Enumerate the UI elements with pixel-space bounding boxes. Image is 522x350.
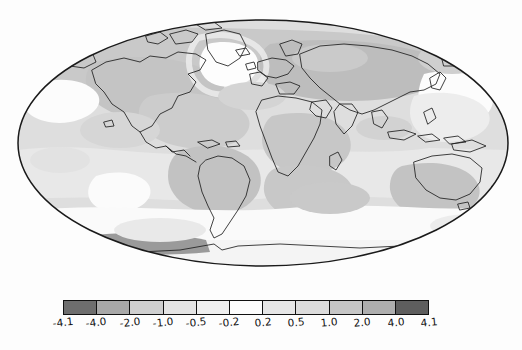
colorbar-tick-3: -1.0 <box>152 315 174 329</box>
colorbar-cell-0[interactable] <box>64 301 97 314</box>
colorbar-cell-9[interactable] <box>363 301 396 314</box>
colorbar-cell-5[interactable] <box>230 301 263 314</box>
colorbar-tick-labels: -4.1-4.0-2.0-1.0-0.5-0.20.20.51.02.04.04… <box>0 316 522 336</box>
world-map-panel <box>0 0 522 286</box>
colorbar-tick-8: 1.0 <box>320 315 338 329</box>
colorbar-tick-10: 4.0 <box>387 315 405 329</box>
colorbar-cell-10[interactable] <box>396 301 428 314</box>
figure-root: -4.1-4.0-2.0-1.0-0.5-0.20.20.51.02.04.04… <box>0 0 522 350</box>
colorbar-cell-7[interactable] <box>296 301 329 314</box>
colorbar-cell-1[interactable] <box>97 301 130 314</box>
colorbar-tick-7: 0.5 <box>287 315 305 329</box>
colorbar-cell-3[interactable] <box>164 301 197 314</box>
colorbar-cell-6[interactable] <box>263 301 296 314</box>
colorbar-tick-6: 0.2 <box>254 315 272 329</box>
colorbar-tick-5: -0.2 <box>218 315 240 329</box>
colorbar-tick-9: 2.0 <box>353 315 371 329</box>
mollweide-map-svg <box>0 0 522 286</box>
colorbar-tick-1: -4.0 <box>85 315 107 329</box>
colorbar-tick-11: 4.1 <box>420 315 438 329</box>
colorbar: -4.1-4.0-2.0-1.0-0.5-0.20.20.51.02.04.04… <box>0 292 522 350</box>
colorbar-cell-2[interactable] <box>130 301 163 314</box>
colorbar-tick-4: -0.5 <box>185 315 207 329</box>
colorbar-cell-4[interactable] <box>197 301 230 314</box>
shaded-field <box>0 0 522 286</box>
colorbar-tick-2: -2.0 <box>119 315 141 329</box>
colorbar-cell-8[interactable] <box>330 301 363 314</box>
colorbar-tick-0: -4.1 <box>52 315 74 329</box>
colorbar-cells[interactable] <box>63 300 429 315</box>
